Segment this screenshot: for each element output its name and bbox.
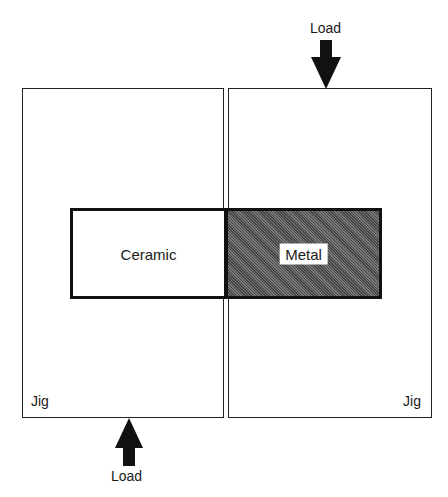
right-jig-label: Jig xyxy=(403,393,421,409)
metal-label: Metal xyxy=(279,243,328,264)
metal-specimen: Metal xyxy=(225,208,382,299)
ceramic-specimen: Ceramic xyxy=(70,208,227,299)
arrow-up-icon xyxy=(115,418,143,466)
ceramic-label: Ceramic xyxy=(121,245,177,262)
left-jig-label: Jig xyxy=(31,393,49,409)
bottom-load-label: Load xyxy=(111,468,142,484)
top-load-label: Load xyxy=(310,20,341,36)
arrow-down-icon xyxy=(311,40,341,89)
